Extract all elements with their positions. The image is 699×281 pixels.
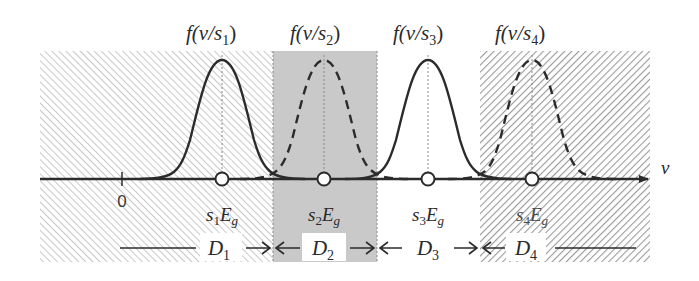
d3-right-arrow — [454, 242, 477, 254]
label-f-s1: f(v/s1) — [186, 21, 236, 48]
label-f-s2: f(v/s2) — [290, 21, 340, 48]
label-f-s4: f(v/s4) — [495, 21, 545, 48]
marker-s1eg — [216, 173, 229, 186]
label-s3eg: s3Eg — [412, 204, 445, 228]
d3-left-arrow — [380, 242, 402, 254]
region-d2 — [273, 51, 377, 262]
marker-s2eg — [318, 173, 331, 186]
function-labels: f(v/s1) f(v/s2) f(v/s3) f(v/s4) — [186, 21, 545, 48]
region-d4 — [480, 51, 650, 262]
axis-label-v: v — [661, 157, 670, 178]
origin-label: 0 — [117, 192, 126, 211]
decision-region-diagram: 0 v f(v/s1) f(v/s2) f(v/s3) f(v/s4) s1Eg… — [0, 0, 699, 281]
marker-s3eg — [422, 173, 435, 186]
label-f-s3: f(v/s3) — [393, 21, 443, 48]
regions — [40, 51, 650, 262]
marker-s4eg — [526, 173, 539, 186]
